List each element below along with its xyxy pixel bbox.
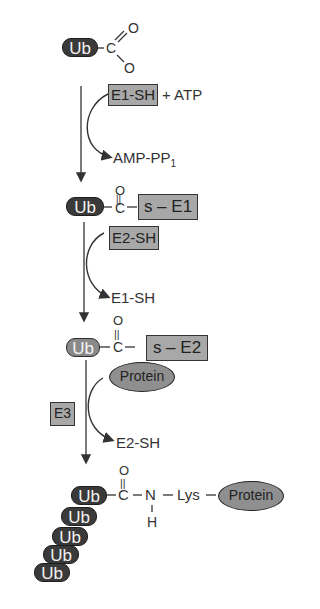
oxygen-atom: O bbox=[128, 21, 139, 35]
e1-sh-box: E1-SH bbox=[108, 84, 158, 106]
e1-sh-label: E1-SH bbox=[111, 289, 155, 306]
polyubiquitin-unit: Ub bbox=[71, 486, 107, 505]
e2-sh-label: E2-SH bbox=[116, 434, 160, 451]
carbon-atom: C bbox=[118, 488, 129, 502]
thioester-e2-box: s – E2 bbox=[146, 335, 208, 361]
protein-substrate-oval: Protein bbox=[218, 481, 284, 511]
e3-ligase-box: E3 bbox=[50, 402, 75, 426]
polyubiquitin-unit: Ub bbox=[61, 507, 97, 526]
carbon-atom: C bbox=[106, 41, 116, 55]
oxygen-atom: O bbox=[124, 61, 135, 75]
ubiquitin-molecule: Ub bbox=[66, 338, 100, 357]
carbon-atom: C bbox=[115, 201, 125, 215]
thioester-e1-box: s – E1 bbox=[138, 194, 198, 220]
hydrogen-atom: H bbox=[147, 515, 157, 529]
polyubiquitin-unit: Ub bbox=[34, 563, 70, 582]
e2-sh-box: E2-SH bbox=[109, 226, 159, 250]
protein-substrate-oval: Protein bbox=[109, 362, 175, 392]
polyubiquitin-unit: Ub bbox=[43, 545, 79, 564]
atp-label: + ATP bbox=[162, 86, 202, 103]
nitrogen-atom: N bbox=[145, 488, 156, 502]
ubiquitin-molecule: Ub bbox=[66, 197, 104, 216]
lysine-label: Lys bbox=[177, 488, 200, 502]
ubiquitin-molecule: Ub bbox=[62, 38, 98, 57]
carbon-atom: C bbox=[113, 340, 123, 354]
amp-ppi-label: AMP-PP1 bbox=[113, 149, 176, 169]
oxygen-atom: O bbox=[113, 314, 123, 328]
polyubiquitin-unit: Ub bbox=[52, 527, 88, 546]
